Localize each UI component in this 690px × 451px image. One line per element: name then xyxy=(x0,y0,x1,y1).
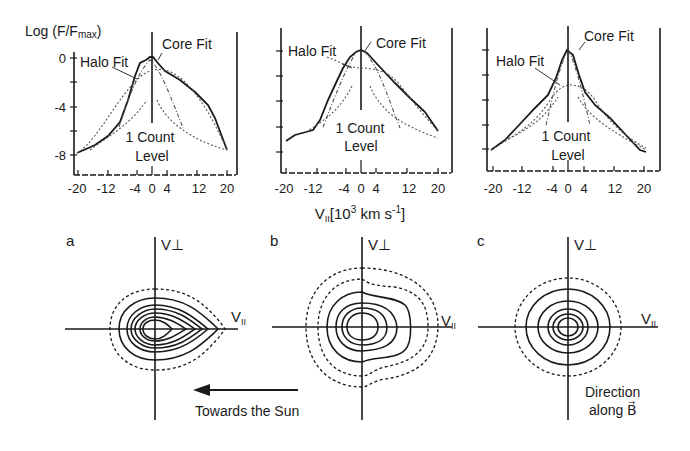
count-level-label: 1 Count xyxy=(125,129,174,145)
x-ticks xyxy=(78,166,227,175)
svg-text:12: 12 xyxy=(402,181,416,196)
towards-sun-arrow xyxy=(193,384,298,396)
contour-panel-b: b V⊥ VII xyxy=(270,232,456,420)
x-tick-labels: -20 -12 -4 0 4 12 20 xyxy=(68,181,235,196)
svg-text:20: 20 xyxy=(220,181,234,196)
y-tick-label: -4 xyxy=(54,100,66,115)
svg-text:-20: -20 xyxy=(68,181,87,196)
panel-letter: a xyxy=(66,232,75,249)
top-panel-1: 0 -4 -8 -20 -12 -4 0 4 12 20 Halo Fit Co… xyxy=(54,32,237,196)
count-level-label: Level xyxy=(344,138,377,154)
v-par-label: VII xyxy=(441,312,456,331)
x-axis-label: VII[103 km s-1] xyxy=(315,204,405,224)
towards-sun-label: Towards the Sun xyxy=(195,403,299,419)
core-fit-label: Core Fit xyxy=(584,28,634,44)
count-level-label: Level xyxy=(135,148,168,164)
y-tick-label: -8 xyxy=(54,148,66,163)
svg-text:20: 20 xyxy=(431,181,445,196)
v-par-label: VII xyxy=(641,310,656,329)
y-ticks xyxy=(276,51,283,152)
count-level-label: 1 Count xyxy=(541,128,590,144)
svg-text:4: 4 xyxy=(163,181,170,196)
panel-letter: b xyxy=(270,232,278,249)
y-tick-label: 0 xyxy=(59,51,66,66)
svg-text:-12: -12 xyxy=(97,181,116,196)
svg-text:0: 0 xyxy=(148,181,155,196)
halo-fit-label: Halo Fit xyxy=(496,53,544,69)
svg-text:-20: -20 xyxy=(484,181,503,196)
direction-label: along B⃗ xyxy=(589,401,637,418)
direction-label: Direction xyxy=(585,384,640,400)
halo-fit-label: Halo Fit xyxy=(288,43,336,59)
svg-text:-12: -12 xyxy=(513,181,532,196)
core-fit-label: Core Fit xyxy=(376,35,426,51)
top-panel-3: -20 -12 -4 0 4 12 20 Halo Fit Core Fit 1… xyxy=(482,26,660,196)
core-pointer xyxy=(158,53,162,60)
svg-text:12: 12 xyxy=(192,181,206,196)
svg-text:-12: -12 xyxy=(304,181,323,196)
top-panel-2: -20 -12 -4 0 4 12 20 Halo Fit Core Fit 1… xyxy=(275,26,452,196)
x-tick-labels: -20 -12 -4 0 4 12 20 xyxy=(484,181,652,196)
halo-fit-label: Halo Fit xyxy=(80,54,128,70)
v-perp-label: V⊥ xyxy=(368,236,391,253)
core-pointer xyxy=(364,42,371,52)
svg-text:0: 0 xyxy=(357,181,364,196)
x-ticks xyxy=(286,160,438,173)
svg-text:4: 4 xyxy=(580,181,587,196)
core-fit-curve xyxy=(119,60,183,128)
svg-text:12: 12 xyxy=(608,181,622,196)
svg-text:0: 0 xyxy=(564,181,571,196)
core-fit-label: Core Fit xyxy=(162,36,212,52)
x-tick-labels: -20 -12 -4 0 4 12 20 xyxy=(275,181,446,196)
y-axis-label: Log (F/Fmax) xyxy=(25,23,101,40)
count-level-label: Level xyxy=(551,147,584,163)
figure-canvas: Log (F/Fmax) 0 -4 -8 -20 -12 -4 0 4 12 2… xyxy=(0,0,690,451)
contour-panel-c: c V⊥ VII Direction along B⃗ xyxy=(477,232,658,420)
count-level-label: 1 Count xyxy=(335,120,384,136)
v-perp-label: V⊥ xyxy=(161,236,184,253)
svg-text:-4: -4 xyxy=(338,181,350,196)
svg-text:-4: -4 xyxy=(546,181,558,196)
y-ticks xyxy=(482,50,489,149)
svg-text:-20: -20 xyxy=(275,181,294,196)
svg-text:4: 4 xyxy=(372,181,379,196)
svg-text:20: 20 xyxy=(637,181,651,196)
svg-text:-4: -4 xyxy=(129,181,141,196)
v-perp-label: V⊥ xyxy=(574,236,597,253)
v-par-label: VII xyxy=(231,308,246,327)
panel-letter: c xyxy=(477,232,485,249)
contour-panel-a: a V⊥ VII xyxy=(65,232,246,420)
